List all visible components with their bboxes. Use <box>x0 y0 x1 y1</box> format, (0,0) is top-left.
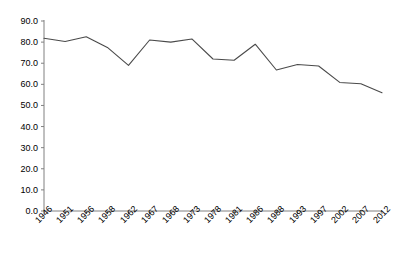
y-axis-tick-label: 10.0 <box>20 185 38 195</box>
y-axis-tick-label: 60.0 <box>20 79 38 89</box>
data-series-line <box>44 37 382 93</box>
y-axis-tick-label: 70.0 <box>20 58 38 68</box>
y-axis-tick-label: 40.0 <box>20 122 38 132</box>
y-axis-tick-label: 50.0 <box>20 100 38 110</box>
y-axis-tick-label: 80.0 <box>20 37 38 47</box>
y-axis-tick-label: 20.0 <box>20 164 38 174</box>
y-axis-tick-label: 90.0 <box>20 16 38 26</box>
y-axis-tick-label: 30.0 <box>20 143 38 153</box>
line-chart: 0.010.020.030.040.050.060.070.080.090.0 … <box>0 0 397 260</box>
axis-group <box>44 20 382 211</box>
